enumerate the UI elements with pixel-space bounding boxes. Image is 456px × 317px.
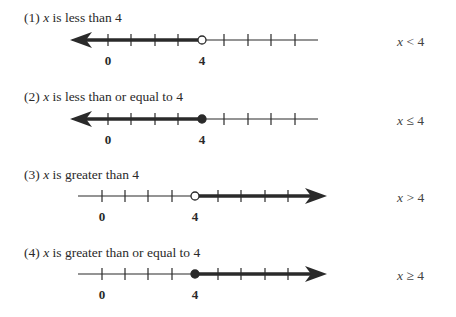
label-zero: 0 [99,287,106,303]
ineq-var: x [397,34,403,49]
number-line-greater-than-or-equal [0,235,456,313]
label-zero: 0 [99,209,106,225]
label-four: 4 [192,287,199,303]
label-four: 4 [199,132,206,148]
inequality: x > 4 [397,190,424,206]
ineq-op: ≤ [406,113,413,128]
inequality: x ≤ 4 [397,113,424,129]
number-line-less-than-or-equal [0,79,456,157]
label-zero: 0 [105,53,112,69]
closed-circle-icon [191,270,199,278]
example-2: (2) x is less than or equal to 4 0 4 x ≤… [0,79,456,157]
example-4: (4) x is greater than or equal to 4 0 4 … [0,235,456,313]
ineq-op: < [406,34,414,49]
example-3: (3) x is greater than 4 0 4 x > 4 [0,157,456,235]
inequality: x ≥ 4 [397,268,424,284]
ineq-var: x [397,113,403,128]
number-line-less-than [0,0,456,78]
open-circle-icon [198,36,206,44]
number-line-greater-than [0,157,456,235]
inequality: x < 4 [397,34,424,50]
ineq-var: x [397,268,403,283]
ineq-op: > [406,190,414,205]
ineq-var: x [397,190,403,205]
ineq-value: 4 [417,190,424,205]
ineq-value: 4 [417,113,424,128]
label-four: 4 [199,53,206,69]
label-zero: 0 [105,132,112,148]
example-1: (1) x is less than 4 0 4 x < 4 [0,0,456,78]
closed-circle-icon [198,115,206,123]
open-circle-icon [191,192,199,200]
label-four: 4 [192,209,199,225]
ineq-value: 4 [417,268,424,283]
ineq-op: ≥ [406,268,413,283]
ineq-value: 4 [417,34,424,49]
